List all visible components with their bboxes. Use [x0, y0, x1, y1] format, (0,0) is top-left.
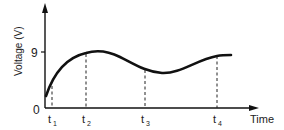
voltage-time-chart: Voltage (V) 9 0 t 1 t 2 t 3 t 4 Time [0, 0, 284, 130]
x-axis-arrow-icon [249, 105, 259, 111]
x-tick-t2: t 2 [82, 113, 91, 127]
x-tick-t4: t 4 [213, 113, 222, 127]
y-axis-label: Voltage (V) [13, 27, 24, 76]
voltage-curve [46, 51, 231, 96]
y-tick-label-9: 9 [31, 46, 38, 60]
dashed-guides [52, 54, 217, 108]
y-axis-arrow-icon [42, 3, 48, 13]
t4-subscript: 4 [218, 120, 222, 127]
y-tick-label-0: 0 [33, 103, 40, 117]
t3-label: t [141, 113, 144, 125]
t2-label: t [82, 113, 85, 125]
x-axis-label: Time [250, 113, 274, 125]
x-tick-t1: t 1 [48, 113, 57, 127]
t1-subscript: 1 [53, 120, 57, 127]
x-tick-t3: t 3 [141, 113, 150, 127]
t3-subscript: 3 [146, 120, 150, 127]
t4-label: t [213, 113, 216, 125]
t1-label: t [48, 113, 51, 125]
t2-subscript: 2 [87, 120, 91, 127]
x-axis [45, 105, 259, 111]
